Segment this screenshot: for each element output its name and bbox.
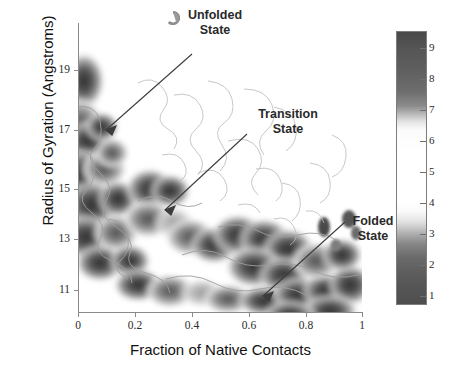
x-tick-label-0.6: 0.6 — [229, 319, 269, 331]
unfolded-state-label-line1: Unfolded — [188, 8, 242, 22]
folded-state-label-line1: Folded — [353, 214, 394, 228]
y-tick-mark-19 — [74, 70, 78, 71]
colorbar-label-1: 1 — [429, 289, 449, 301]
colorbar-tick-8 — [420, 79, 426, 80]
colorbar — [396, 31, 427, 305]
colorbar-tick-7 — [420, 110, 426, 111]
x-tick-mark-0.8 — [306, 313, 307, 317]
x-tick-label-0: 0 — [58, 319, 98, 331]
colorbar-tick-6 — [420, 141, 426, 142]
x-tick-label-0.4: 0.4 — [172, 319, 212, 331]
y-tick-mark-17 — [74, 130, 78, 131]
x-tick-label-1: 1 — [342, 319, 382, 331]
colorbar-tick-4 — [420, 203, 426, 204]
x-axis-line — [78, 312, 363, 313]
transition-state-label-line1: Transition — [258, 107, 318, 121]
x-axis-title: Fraction of Native Contacts — [78, 341, 363, 358]
x-tick-mark-0.2 — [135, 313, 136, 317]
partial-ring-icon — [166, 11, 180, 25]
colorbar-label-3: 3 — [429, 227, 449, 239]
folded-state-label-line2: State — [358, 229, 389, 243]
colorbar-label-7: 7 — [429, 103, 449, 115]
x-tick-mark-1 — [362, 313, 363, 317]
colorbar-label-6: 6 — [429, 134, 449, 146]
y-axis-title: Radius of Gyration (Angstroms) — [39, 0, 56, 251]
free-energy-landscape-figure: 19 17 15 13 11 0 0.2 0.4 0.6 0.8 1 Radiu… — [0, 0, 462, 373]
colorbar-tick-3 — [420, 234, 426, 235]
y-tick-mark-13 — [74, 239, 78, 240]
x-tick-mark-0.4 — [192, 313, 193, 317]
unfolded-state-label-line2: State — [200, 23, 231, 37]
x-tick-label-0.2: 0.2 — [115, 319, 155, 331]
y-axis-line — [78, 23, 79, 313]
x-tick-mark-0.6 — [249, 313, 250, 317]
annotation-transition-state: Transition State — [238, 107, 338, 137]
colorbar-label-4: 4 — [429, 196, 449, 208]
y-tick-mark-11 — [74, 290, 78, 291]
y-tick-label-11: 11 — [46, 283, 70, 295]
colorbar-tick-1 — [420, 296, 426, 297]
colorbar-label-5: 5 — [429, 165, 449, 177]
colorbar-label-2: 2 — [429, 258, 449, 270]
colorbar-label-9: 9 — [429, 41, 449, 53]
x-tick-mark-0 — [78, 313, 79, 317]
density-map — [78, 23, 362, 312]
y-tick-mark-15 — [74, 189, 78, 190]
colorbar-tick-2 — [420, 265, 426, 266]
colorbar-label-8: 8 — [429, 72, 449, 84]
plot-canvas — [78, 23, 362, 312]
colorbar-tick-5 — [420, 172, 426, 173]
x-tick-label-0.8: 0.8 — [286, 319, 326, 331]
transition-state-label-line2: State — [273, 122, 304, 136]
colorbar-tick-9 — [420, 48, 426, 49]
colorbar-gradient — [397, 32, 426, 304]
